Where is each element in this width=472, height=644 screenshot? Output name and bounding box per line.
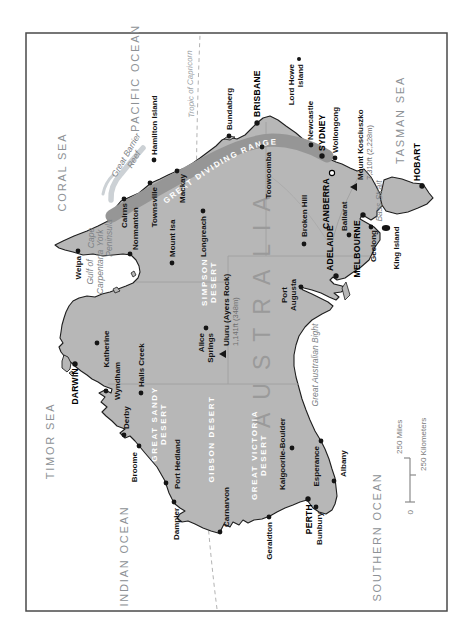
adelaide-dot bbox=[333, 273, 338, 278]
hobart-label: HOBART bbox=[412, 142, 422, 181]
mount-isa-label: Mount Isa bbox=[168, 219, 177, 257]
simpson-desert-label-2: DESERT bbox=[209, 261, 218, 303]
lord-howe-island-dot bbox=[297, 57, 301, 61]
canberra-label: CANBERRA bbox=[321, 178, 331, 229]
mount-isa-dot bbox=[170, 261, 175, 266]
port-augusta-label-2: Augusta bbox=[289, 278, 298, 311]
lord-howe-island-label-2: Island bbox=[296, 64, 305, 87]
perth-label: PERTH bbox=[304, 504, 314, 534]
country-label: AUSTRALIA bbox=[249, 183, 275, 428]
kalgoorlie-dot bbox=[290, 446, 295, 451]
broken-hill-dot bbox=[302, 242, 307, 247]
dampier-dot bbox=[172, 500, 177, 505]
great-sandy-desert-label-1: GREAT SANDY bbox=[150, 386, 159, 461]
bunbury-dot bbox=[314, 505, 319, 510]
hamilton-island-dot bbox=[152, 158, 157, 163]
cairns-dot bbox=[122, 197, 127, 202]
scale-kilometers-label: 250 Kilometers bbox=[419, 418, 428, 471]
mount-kosciuszko-label: Mount Kosciuszko bbox=[356, 109, 365, 180]
normanton-dot bbox=[128, 252, 133, 257]
weipa-dot bbox=[76, 249, 81, 254]
alice-springs-label-1: Alice bbox=[197, 332, 206, 352]
king-island-shape bbox=[382, 225, 390, 231]
map-svg: AUSTRALIA GREAT DIVIDING RANGE PACIFIC O… bbox=[0, 0, 472, 644]
cairns-label: Cairns bbox=[120, 202, 129, 227]
timor-sea-label: TIMOR SEA bbox=[44, 403, 56, 480]
hamilton-island-label: Hamilton Island bbox=[150, 95, 159, 155]
mackay-label: Mackay bbox=[178, 173, 187, 202]
great-victoria-desert-label-1: GREAT VICTORIA bbox=[250, 410, 259, 500]
sydney-label: SYDNEY bbox=[317, 114, 327, 151]
townsville-label: Townsville bbox=[150, 186, 159, 227]
weipa-label: Weipa bbox=[74, 255, 83, 279]
broken-hill-label: Broken Hill bbox=[300, 195, 309, 237]
adelaide-label: ADELAIDE bbox=[325, 225, 335, 271]
coral-sea-label: CORAL SEA bbox=[56, 133, 68, 212]
halls-creek-label: Halls Creek bbox=[137, 343, 146, 387]
ballarat-dot bbox=[347, 233, 352, 238]
darwin-label: DARWIN bbox=[70, 368, 80, 405]
port-hedland-dot bbox=[164, 481, 169, 486]
canberra-capital-symbol bbox=[329, 170, 334, 175]
geelong-label: Geelong bbox=[369, 230, 378, 262]
port-hedland-label: Port Hedland bbox=[173, 439, 182, 489]
perth-dot bbox=[305, 496, 310, 501]
dampier-label: Dampier bbox=[172, 508, 181, 540]
southern-ocean-label: SOUTHERN OCEAN bbox=[371, 472, 383, 601]
gulf-of-carpentaria-label-1: Gulf of bbox=[85, 258, 95, 285]
geelong-dot bbox=[369, 225, 374, 230]
melbourne-dot bbox=[360, 212, 365, 217]
great-victoria-desert-label-2: DESERT bbox=[259, 434, 268, 476]
port-augusta-dot bbox=[299, 285, 304, 290]
gibson-desert-label: GIBSON DESERT bbox=[207, 395, 216, 482]
lord-howe-island-label-1: Lord Howe bbox=[287, 63, 296, 105]
kalgoorlie-label: Kalgoorlie-Boulder bbox=[278, 418, 287, 490]
cape-york-label-3: Peninsula bbox=[104, 219, 114, 257]
albany-dot bbox=[332, 479, 337, 484]
uluru-label: Uluru (Ayers Rock) bbox=[222, 274, 231, 347]
pacific-ocean-label: PACIFIC OCEAN bbox=[129, 24, 141, 132]
bundaberg-label: Bundaberg bbox=[225, 88, 234, 130]
wyndham-dot bbox=[104, 389, 109, 394]
toowoomba-dot bbox=[260, 145, 265, 150]
carnarvon-label: Carnarvon bbox=[222, 487, 231, 527]
tasman-sea-label: TASMAN SEA bbox=[394, 76, 406, 164]
wollongong-label: Wollongong bbox=[331, 107, 340, 153]
longreach-dot bbox=[201, 209, 206, 214]
hobart-dot bbox=[419, 183, 424, 188]
great-sandy-desert-label-2: DESERT bbox=[159, 403, 168, 445]
bundaberg-dot bbox=[227, 134, 232, 139]
carnarvon-dot bbox=[218, 530, 223, 535]
broome-label: Broome bbox=[130, 451, 139, 482]
newcastle-dot bbox=[309, 143, 314, 148]
esperance-label: Esperance bbox=[312, 445, 321, 486]
geraldton-dot bbox=[267, 515, 272, 520]
derby-dot bbox=[122, 433, 127, 438]
indian-ocean-label: INDIAN OCEAN bbox=[118, 505, 130, 606]
king-island-label: King Island bbox=[392, 226, 401, 269]
wyndham-label: Wyndham bbox=[113, 362, 122, 400]
alice-springs-dot bbox=[204, 326, 209, 331]
alice-springs-label-2: Springs bbox=[206, 332, 215, 362]
longreach-label: Longreach bbox=[199, 216, 208, 257]
brisbane-label: BRISBANE bbox=[252, 70, 262, 117]
normanton-label: Normanton bbox=[131, 207, 140, 250]
mount-kosciuszko-elevation: 7,310ft (2,228m) bbox=[365, 124, 374, 180]
townsville-dot bbox=[148, 181, 153, 186]
katherine-dot bbox=[95, 341, 100, 346]
great-australian-bight-label: Great Australian Bight bbox=[310, 323, 320, 406]
newcastle-label: Newcastle bbox=[306, 100, 315, 140]
scale-miles-label: 250 Miles bbox=[395, 420, 404, 454]
albany-label: Albany bbox=[339, 450, 348, 477]
melbourne-label: MELBOURNE bbox=[352, 220, 362, 278]
wollongong-dot bbox=[333, 156, 338, 161]
scale-zero-label: 0 bbox=[406, 509, 415, 514]
australia-map-screenshot: AUSTRALIA GREAT DIVIDING RANGE PACIFIC O… bbox=[0, 0, 472, 644]
uluru-elevation: 1,141ft (348m) bbox=[231, 297, 240, 346]
toowoomba-label: Toowoomba bbox=[264, 151, 273, 198]
bunbury-label: Bunbury bbox=[315, 511, 324, 544]
mackay-dot bbox=[175, 169, 180, 174]
brisbane-dot bbox=[254, 120, 259, 125]
katherine-label: Katherine bbox=[102, 330, 111, 367]
bass-strait-label: Bass Strait bbox=[374, 180, 384, 222]
